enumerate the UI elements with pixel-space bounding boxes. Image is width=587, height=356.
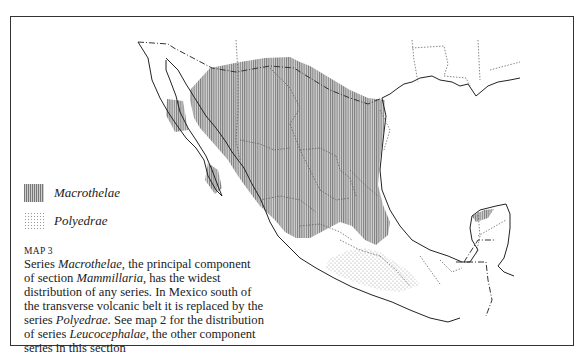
legend-item-polyedrae: Polyedrae <box>24 210 120 232</box>
yucatan-macrothelae <box>472 209 494 222</box>
legend-label: Macrothelae <box>54 185 120 201</box>
caption-part: Series <box>24 257 58 271</box>
caption-part-italic: Leucocephalae <box>69 327 145 341</box>
legend-item-macrothelae: Macrothelae <box>24 182 120 204</box>
hatch-swatch-icon <box>24 184 44 202</box>
polyedrae-range <box>325 248 420 292</box>
caption-part-italic: Macrothelae <box>58 257 122 271</box>
macrothelae-range <box>190 57 390 245</box>
map-number: MAP 3 <box>24 246 264 256</box>
stipple-swatch-icon <box>24 212 44 230</box>
caption-text: Series Macrothelae, the principal compon… <box>24 257 264 355</box>
caption-part-italic: Mammillaria <box>76 271 142 285</box>
baja-macrothelae <box>166 99 188 132</box>
legend-label: Polyedrae <box>54 213 107 229</box>
map-caption: MAP 3 Series Macrothelae, the principal … <box>24 246 264 355</box>
map-legend: Macrothelae Polyedrae <box>24 182 120 238</box>
caption-part-italic: Polyedrae <box>56 313 108 327</box>
